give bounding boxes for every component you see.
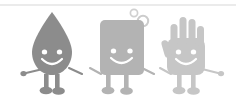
hand-finger-pinky <box>197 26 204 46</box>
hand-finger-ring <box>189 19 196 46</box>
droplet-right-eye <box>57 50 62 55</box>
hygiene-illustration <box>0 0 236 102</box>
hand-left-eye <box>176 50 181 55</box>
soap-right-leg <box>124 74 129 88</box>
hand-left-leg <box>177 74 182 88</box>
soap-left-eye <box>111 49 116 54</box>
illustration-svg <box>0 0 236 102</box>
droplet-left-foot <box>40 87 53 95</box>
droplet-left-leg <box>44 74 49 88</box>
hand-left-foot <box>173 87 186 95</box>
soap-left-leg <box>106 74 111 88</box>
soap-right-eye <box>127 49 132 54</box>
soap-left-foot <box>102 87 115 95</box>
hand-right-eye <box>191 50 196 55</box>
hand-finger-middle <box>180 17 187 46</box>
droplet-right-leg <box>55 74 60 88</box>
soap-body <box>100 20 144 75</box>
droplet-right-foot <box>52 87 65 95</box>
droplet-left-eye <box>42 50 47 55</box>
soap-right-foot <box>120 87 133 95</box>
droplet-left-hand <box>20 71 26 76</box>
top-horizontal-rule <box>0 5 236 6</box>
hand-right-hand <box>218 71 224 76</box>
hand-finger-index <box>171 24 178 46</box>
hand-right-foot <box>187 87 200 95</box>
hand-right-leg <box>191 74 196 88</box>
